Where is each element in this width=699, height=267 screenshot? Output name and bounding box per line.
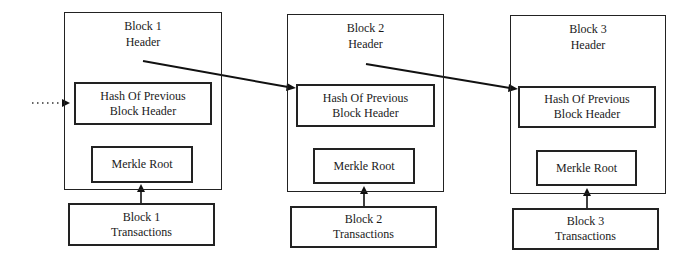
block-2-hash-prev-box: Hash Of Previous Block Header [296, 84, 435, 127]
block-1-header-title: Block 1 Header [65, 18, 221, 50]
block-1-merkle-root-box: Merkle Root [91, 146, 193, 183]
transactions-label: Block 2 [345, 212, 383, 227]
hash-prev-sublabel: Block Header [332, 106, 398, 121]
transactions-sublabel: Transactions [333, 227, 394, 242]
merkle-root-label: Merkle Root [112, 157, 173, 172]
block-1-header-sublabel: Header [65, 34, 221, 50]
merkle-root-label: Merkle Root [334, 159, 395, 174]
transactions-sublabel: Transactions [111, 225, 172, 240]
block-2-header-title: Block 2 Header [288, 20, 443, 52]
block-3-transactions-box: Block 3 Transactions [512, 208, 659, 250]
block-2-transactions-box: Block 2 Transactions [290, 206, 437, 248]
block-1-header-label: Block 1 [65, 18, 221, 34]
transactions-label: Block 3 [567, 214, 605, 229]
hash-prev-label: Hash Of Previous [544, 92, 629, 107]
block-3-merkle-root-box: Merkle Root [536, 150, 637, 186]
block-1-transactions-box: Block 1 Transactions [68, 203, 215, 246]
block-2-header-sublabel: Header [288, 36, 443, 52]
merkle-root-label: Merkle Root [556, 161, 617, 176]
block-3-header-sublabel: Header [511, 37, 665, 53]
block-3-hash-prev-box: Hash Of Previous Block Header [518, 86, 656, 128]
block-3-header-label: Block 3 [511, 21, 665, 37]
hash-prev-sublabel: Block Header [110, 104, 176, 119]
block-2-header-label: Block 2 [288, 20, 443, 36]
hash-prev-sublabel: Block Header [554, 107, 620, 122]
transactions-sublabel: Transactions [555, 229, 616, 244]
hash-prev-label: Hash Of Previous [100, 89, 185, 104]
hash-prev-label: Hash Of Previous [323, 91, 408, 106]
transactions-label: Block 1 [123, 210, 161, 225]
block-3-header-title: Block 3 Header [511, 21, 665, 53]
block-1-hash-prev-box: Hash Of Previous Block Header [74, 82, 212, 125]
block-2-merkle-root-box: Merkle Root [313, 148, 415, 184]
